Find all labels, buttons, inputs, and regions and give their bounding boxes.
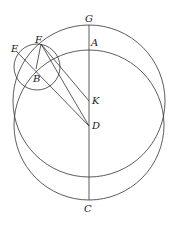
labels-group: GAFEBKDC bbox=[10, 13, 100, 214]
point-label-d: D bbox=[91, 120, 100, 131]
point-label-k: K bbox=[91, 95, 100, 106]
line-FD bbox=[41, 44, 89, 126]
point-label-a: A bbox=[90, 37, 98, 48]
line-FK bbox=[41, 44, 89, 101]
point-label-f: F bbox=[34, 34, 43, 45]
point-label-b: B bbox=[32, 73, 40, 84]
line-FB bbox=[36, 44, 41, 69]
segments-group bbox=[17, 25, 89, 200]
point-label-e: E bbox=[10, 43, 19, 54]
geometry-figure: GAFEBKDC bbox=[0, 0, 171, 226]
point-label-c: C bbox=[84, 203, 92, 214]
line-ED bbox=[17, 52, 89, 126]
point-label-g: G bbox=[85, 13, 93, 24]
